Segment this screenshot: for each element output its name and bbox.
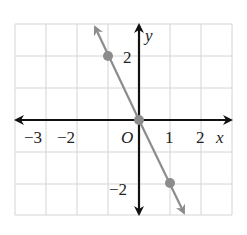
data-line-lower — [139, 120, 184, 213]
x-tick-label: 2 — [196, 128, 205, 147]
x-tick-label: −3 — [24, 128, 42, 147]
x-axis-label: x — [215, 128, 224, 147]
data-point — [103, 51, 113, 61]
coordinate-plane: −3 −2 1 2 x O 2 −2 y — [0, 0, 247, 235]
data-line — [95, 27, 139, 120]
y-tick-label: 2 — [123, 48, 132, 67]
x-tick-label: 1 — [165, 128, 174, 147]
y-axis-label: y — [143, 26, 153, 45]
origin-label: O — [121, 128, 133, 147]
y-tick-label: −2 — [109, 180, 127, 199]
data-point — [134, 115, 144, 125]
x-tick-label: −2 — [57, 128, 75, 147]
data-point — [165, 178, 175, 188]
